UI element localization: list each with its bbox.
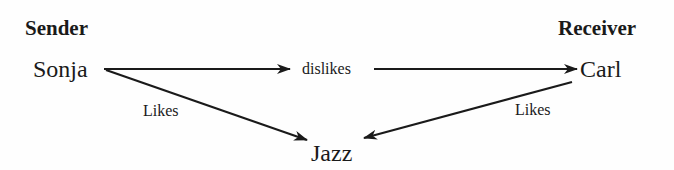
communication-triangle-diagram: Sender Receiver Sonja Carl Jazz dislikes…	[0, 0, 674, 170]
node-jazz: Jazz	[311, 141, 352, 165]
arrow-sonja-to-jazz	[106, 70, 307, 140]
edge-label-sonja-likes: Likes	[143, 103, 179, 119]
relation-dislikes: dislikes	[302, 61, 351, 77]
receiver-heading: Receiver	[558, 18, 636, 39]
edge-label-carl-likes: Likes	[515, 102, 551, 118]
node-sonja: Sonja	[33, 57, 88, 81]
node-carl: Carl	[580, 57, 621, 81]
sender-heading: Sender	[25, 18, 88, 39]
